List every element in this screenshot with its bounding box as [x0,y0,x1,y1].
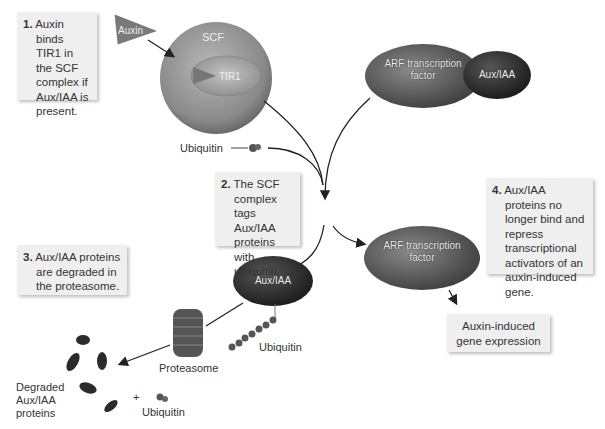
degraded-fragments-icon [64,335,120,414]
outcome-box: Auxin-induced gene expression [447,314,550,352]
auxiaa-top-label: Aux/IAA [470,69,524,81]
arf-free-label: ARF transcription factor [382,240,462,264]
auxiaa-tagged-label: Aux/IAA [245,275,301,287]
ubiquitin-chain-label: Ubiquitin [259,341,302,354]
step-4-box: 4. Aux/IAA proteins no longer bind and r… [486,178,593,274]
step-number: 4. [492,184,502,196]
step-number: 3. [23,251,33,263]
step-text: Aux/IAA proteins are degraded in the pro… [35,251,120,292]
proteasome-icon [173,309,203,357]
auxin-label: Auxin [118,24,143,37]
step-text: Aux/IAA proteins no longer bind and repr… [504,184,584,298]
tir1-label: TIR1 [219,70,241,83]
arf-top-label: ARF transcription factor [383,58,463,82]
step-3-box: 3. Aux/IAA proteins are degraded in the … [17,245,127,295]
ubiquitin-bottom-label: Ubiquitin [142,406,185,419]
plus-sign: + [133,391,139,404]
outcome-text: Auxin-induced gene expression [456,320,540,347]
scf-label: SCF [202,31,224,44]
proteasome-label: Proteasome [159,362,218,375]
auxin-signaling-diagram: 1. Auxin binds TIR1 in the SCF complex i… [0,0,605,429]
step-2-box: 2. The SCF complex tags Aux/IAA proteins… [215,172,300,246]
step-1-box: 1. Auxin binds TIR1 in the SCF complex i… [17,12,97,100]
step-text: The SCF complex tags Aux/IAA proteins wi… [234,178,280,277]
step-number: 1. [23,18,33,30]
degraded-label: Degraded Aux/IAA proteins [16,381,66,420]
step-number: 2. [221,178,231,190]
step-text: Auxin binds TIR1 in the SCF complex if A… [35,18,88,117]
ubiquitin-top-label: Ubiquitin [180,142,223,155]
